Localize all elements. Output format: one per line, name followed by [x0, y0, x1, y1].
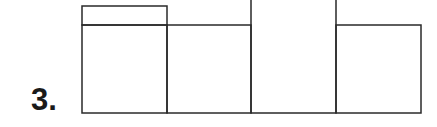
cell-1-top-strip [82, 6, 167, 25]
cell-1 [82, 25, 167, 113]
shape-figure [0, 0, 437, 127]
cell-4 [336, 25, 421, 113]
cell-3 [251, 0, 336, 113]
cell-2 [167, 25, 251, 113]
